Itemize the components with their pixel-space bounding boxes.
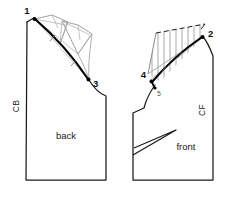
front-spread-hatch-region	[148, 10, 203, 95]
front-point-4-dot	[150, 80, 154, 84]
back-piece-name: back	[56, 130, 76, 141]
front-piece-name: front	[176, 141, 195, 152]
back-point-1-dot	[33, 17, 37, 21]
front-hatch-lines	[152, 10, 200, 95]
front-side-dart-wedge	[133, 130, 176, 155]
front-point-2-dot	[201, 35, 205, 39]
back-point-1-label: 1	[24, 5, 30, 16]
back-point-3-label: 3	[93, 78, 98, 89]
front-piece-group: 2 4 5 front CF	[133, 10, 213, 180]
front-dash-pointer	[201, 24, 205, 29]
front-point-5-label: 5	[157, 90, 161, 97]
cf-grain-label: CF	[197, 104, 207, 116]
back-piece-group: 1 3 back CB	[11, 5, 106, 180]
pattern-drawing: 1 3 back CB	[0, 0, 240, 211]
front-point-4-label: 4	[141, 69, 147, 80]
front-point-2-label: 2	[208, 28, 213, 39]
back-point-3-dot	[87, 78, 91, 82]
back-body-outline	[26, 22, 106, 180]
back-wedge-b-fold-2	[78, 25, 80, 40]
back-spread-outer-edge	[89, 34, 92, 79]
pattern-diagram-root: 1 3 back CB	[0, 0, 240, 211]
front-spread-dashed-top	[156, 24, 205, 33]
cb-grain-label: CB	[11, 100, 21, 113]
